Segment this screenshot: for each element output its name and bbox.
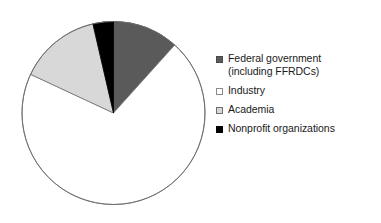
legend-swatch-nonprofit-organizations (216, 126, 223, 133)
legend-item-label: Industry (228, 84, 265, 97)
legend-item[interactable]: Academia (216, 103, 381, 116)
pie-chart-plot-area (0, 0, 215, 223)
legend-swatch-industry (216, 88, 223, 95)
pie-chart-figure: Federal government (including FFRDCs) In… (0, 0, 381, 223)
legend-item-label: Federal government (including FFRDCs) (228, 52, 321, 77)
legend-item[interactable]: Industry (216, 84, 381, 97)
chart-legend: Federal government (including FFRDCs) In… (216, 52, 381, 141)
legend-item[interactable]: Federal government (including FFRDCs) (216, 52, 381, 77)
pie-chart-svg (0, 0, 215, 223)
legend-item[interactable]: Nonprofit organizations (216, 122, 381, 135)
legend-swatch-academia (216, 107, 223, 114)
legend-item-label: Academia (228, 103, 274, 116)
pie-slice-group (22, 22, 205, 205)
legend-swatch-federal-government (216, 56, 223, 63)
legend-item-label: Nonprofit organizations (228, 122, 335, 135)
